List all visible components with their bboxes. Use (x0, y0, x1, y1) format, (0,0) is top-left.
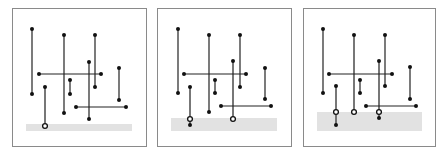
endpoint-dot (68, 92, 72, 96)
endpoint-dot (263, 66, 267, 70)
endpoint-dot (383, 84, 387, 88)
endpoint-dot (87, 60, 91, 64)
endpoint-dot (408, 65, 412, 69)
endpoint-dot (207, 33, 211, 37)
sweep-band (26, 124, 132, 131)
endpoint-dot (188, 123, 192, 127)
endpoint-dot (176, 91, 180, 95)
sweep-hit-ring (352, 110, 357, 115)
panel-1 (13, 9, 147, 147)
endpoint-dot (68, 78, 72, 82)
endpoint-dot (93, 33, 97, 37)
endpoint-dot (117, 66, 121, 70)
endpoint-dot (263, 97, 267, 101)
endpoint-dot (62, 111, 66, 115)
endpoint-dot (377, 59, 381, 63)
endpoint-dot (30, 92, 34, 96)
endpoint-dot (321, 91, 325, 95)
endpoint-dot (358, 78, 362, 82)
endpoint-dot (358, 91, 362, 95)
endpoint-dot (87, 117, 91, 121)
endpoint-dot (124, 105, 128, 109)
sweep-hit-ring (377, 110, 382, 115)
endpoint-dot (74, 105, 78, 109)
sweep-hit-ring (43, 124, 48, 129)
endpoint-dot (62, 33, 66, 37)
sweep-band (171, 118, 277, 131)
endpoint-dot (176, 27, 180, 31)
sweep-hit-ring (231, 117, 236, 122)
endpoint-dot (231, 59, 235, 63)
endpoint-dot (321, 27, 325, 31)
sweep-hit-ring (188, 117, 193, 122)
endpoint-dot (93, 85, 97, 89)
endpoint-dot (30, 27, 34, 31)
endpoint-dot (99, 72, 103, 76)
endpoint-dot (238, 85, 242, 89)
endpoint-dot (408, 97, 412, 101)
endpoint-dot (269, 104, 273, 108)
endpoint-dot (377, 116, 381, 120)
sweep-band (317, 112, 422, 131)
sweep-hit-ring (334, 110, 339, 115)
endpoint-dot (238, 33, 242, 37)
panel-2 (158, 9, 292, 147)
sweep-line-figure (0, 0, 447, 157)
endpoint-dot (334, 123, 338, 127)
endpoint-dot (37, 72, 41, 76)
endpoint-dot (383, 33, 387, 37)
endpoint-dot (213, 91, 217, 95)
endpoint-dot (117, 98, 121, 102)
endpoint-dot (414, 104, 418, 108)
endpoint-dot (182, 72, 186, 76)
endpoint-dot (207, 110, 211, 114)
endpoint-dot (188, 85, 192, 89)
endpoint-dot (43, 85, 47, 89)
endpoint-dot (244, 72, 248, 76)
endpoint-dot (213, 78, 217, 82)
endpoint-dot (219, 104, 223, 108)
endpoint-dot (334, 84, 338, 88)
panel-3 (304, 9, 436, 147)
endpoint-dot (390, 72, 394, 76)
endpoint-dot (327, 72, 331, 76)
endpoint-dot (352, 33, 356, 37)
endpoint-dot (364, 104, 368, 108)
